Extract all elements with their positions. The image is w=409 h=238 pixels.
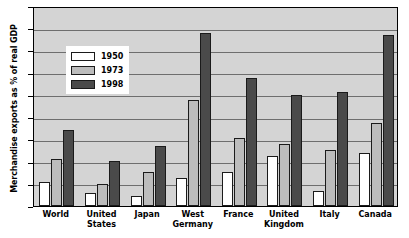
bar xyxy=(383,35,394,206)
bar xyxy=(371,123,382,206)
bar-group xyxy=(171,8,217,206)
x-axis-tick-label: UnitedStates xyxy=(79,210,125,229)
bar-group xyxy=(80,8,126,206)
bar xyxy=(155,146,166,206)
x-axis-tick-label-line: Canada xyxy=(352,210,398,220)
bar xyxy=(325,150,336,206)
x-axis-tick-label-line: United xyxy=(261,210,307,220)
bar xyxy=(222,172,233,206)
x-axis-tick-label-line: Germany xyxy=(170,220,216,230)
bar xyxy=(85,193,96,206)
bar xyxy=(337,92,348,206)
y-axis-title: Merchandise exports as % of real GDP xyxy=(10,9,19,209)
x-axis-tick-label-line: United xyxy=(79,210,125,220)
x-axis-tick-label: France xyxy=(216,210,262,220)
legend-item: 1950 xyxy=(71,50,125,62)
bar xyxy=(188,100,199,206)
x-axis-tick-label: Japan xyxy=(124,210,170,220)
x-axis-tick-label: Italy xyxy=(307,210,353,220)
bar xyxy=(97,184,108,206)
legend-swatch xyxy=(71,52,95,61)
bar xyxy=(176,178,187,206)
bar xyxy=(267,156,278,206)
y-axis-tick-mark xyxy=(28,207,33,208)
x-axis-tick-label-line: States xyxy=(79,220,125,230)
bar xyxy=(131,196,142,206)
plot-area xyxy=(33,7,398,207)
x-axis-tick-label: UnitedKingdom xyxy=(261,210,307,229)
x-axis-tick-label-line: West xyxy=(170,210,216,220)
bar xyxy=(200,33,211,206)
bar xyxy=(51,159,62,206)
x-axis-tick-label: World xyxy=(33,210,79,220)
x-axis-tick-label: Canada xyxy=(352,210,398,220)
bar-group xyxy=(308,8,354,206)
bar-group xyxy=(217,8,263,206)
legend-item: 1973 xyxy=(71,64,125,76)
bar xyxy=(279,144,290,206)
bar xyxy=(313,191,324,206)
legend-label: 1950 xyxy=(101,52,123,61)
x-axis-tick-label-line: Kingdom xyxy=(261,220,307,230)
x-axis-tick-label-line: Italy xyxy=(307,210,353,220)
legend-swatch xyxy=(71,80,95,89)
x-axis-tick-label-line: World xyxy=(33,210,79,220)
bar xyxy=(143,172,154,206)
legend: 195019731998 xyxy=(66,46,129,94)
bar-group xyxy=(34,8,80,206)
bar xyxy=(39,182,50,206)
legend-item: 1998 xyxy=(71,78,125,90)
bar xyxy=(359,153,370,206)
bar-group xyxy=(353,8,399,206)
bar-group xyxy=(125,8,171,206)
x-axis-tick-label: WestGermany xyxy=(170,210,216,229)
bar xyxy=(234,138,245,206)
bar xyxy=(246,78,257,206)
bar-chart: Merchandise exports as % of real GDP 051… xyxy=(0,0,409,238)
bar-group xyxy=(262,8,308,206)
bar xyxy=(63,130,74,206)
legend-label: 1998 xyxy=(101,80,123,89)
bar xyxy=(109,161,120,206)
bar-series-container xyxy=(34,8,397,206)
legend-swatch xyxy=(71,66,95,75)
bar xyxy=(291,95,302,206)
x-axis-tick-label-line: France xyxy=(216,210,262,220)
legend-label: 1973 xyxy=(101,66,123,75)
x-axis-tick-label-line: Japan xyxy=(124,210,170,220)
